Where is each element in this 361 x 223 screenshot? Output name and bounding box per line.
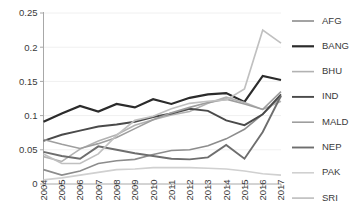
x-tick-label: 2016 bbox=[257, 179, 268, 200]
x-axis: 2004200520062007200820092010201120122013… bbox=[38, 179, 287, 200]
y-tick-label: 0.1 bbox=[24, 110, 37, 121]
legend-label-sri: SRI bbox=[322, 192, 338, 203]
x-tick-label: 2009 bbox=[129, 179, 140, 200]
series-lines bbox=[44, 30, 282, 180]
y-tick-label: 0.25 bbox=[19, 7, 38, 18]
legend-label-mald: MALD bbox=[322, 116, 349, 127]
legend-label-ind: IND bbox=[322, 90, 339, 101]
y-axis: 00.050.10.150.20.25 bbox=[19, 7, 44, 189]
series-line-sri bbox=[44, 30, 282, 163]
chart-legend: AFGBANGBHUINDMALDNEPPAKSRI bbox=[292, 15, 349, 203]
x-tick-label: 2012 bbox=[184, 179, 195, 200]
y-tick-label: 0.15 bbox=[19, 76, 38, 87]
x-tick-label: 2007 bbox=[93, 179, 104, 200]
x-tick-label: 2014 bbox=[221, 179, 232, 200]
x-tick-label: 2011 bbox=[166, 180, 177, 200]
x-tick-label: 2010 bbox=[148, 179, 159, 200]
legend-label-pak: PAK bbox=[322, 166, 341, 177]
legend-label-bhu: BHU bbox=[322, 65, 342, 76]
y-tick-label: 0.2 bbox=[24, 42, 37, 53]
x-tick-label: 2005 bbox=[56, 179, 67, 200]
x-tick-label: 2006 bbox=[74, 179, 85, 200]
line-chart: 00.050.10.150.20.25 20042005200620072008… bbox=[0, 0, 361, 223]
chart-canvas: 00.050.10.150.20.25 20042005200620072008… bbox=[0, 0, 361, 223]
legend-label-nep: NEP bbox=[322, 141, 342, 152]
x-tick-label: 2013 bbox=[202, 179, 213, 200]
y-tick-label: 0.05 bbox=[19, 144, 38, 155]
series-line-pak bbox=[44, 168, 282, 180]
y-tick-label: 0 bbox=[32, 178, 37, 189]
x-tick-label: 2004 bbox=[38, 179, 49, 200]
x-tick-label: 2008 bbox=[111, 179, 122, 200]
x-tick-label: 2017 bbox=[275, 179, 286, 200]
legend-label-bang: BANG bbox=[322, 40, 349, 51]
x-tick-label: 2015 bbox=[239, 179, 250, 200]
legend-label-afg: AFG bbox=[322, 15, 342, 26]
